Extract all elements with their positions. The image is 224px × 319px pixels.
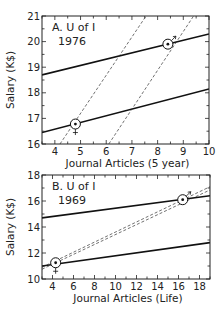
dashed-line bbox=[109, 16, 194, 144]
x-tick-label: 18 bbox=[193, 281, 206, 292]
x-tick-label: 4 bbox=[52, 146, 58, 157]
x-tick-label: 6 bbox=[70, 281, 76, 292]
figure: 45678910161718192021Journal Articles (5 … bbox=[0, 0, 224, 319]
x-tick-label: 5 bbox=[77, 146, 83, 157]
y-tick-label: 17 bbox=[27, 113, 40, 124]
y-tick-label: 19 bbox=[27, 62, 40, 73]
panel-year: 1969 bbox=[58, 194, 86, 207]
panel-title: B. U of I bbox=[52, 180, 95, 193]
female-mean-marker bbox=[70, 119, 80, 135]
x-tick-label: 10 bbox=[203, 146, 216, 157]
x-tick-label: 8 bbox=[91, 281, 97, 292]
x-tick-label: 4 bbox=[49, 281, 55, 292]
y-tick-label: 21 bbox=[27, 11, 40, 22]
x-tick-label: 12 bbox=[130, 281, 143, 292]
x-tick-label: 10 bbox=[109, 281, 122, 292]
x-tick-label: 16 bbox=[172, 281, 185, 292]
regression-line bbox=[42, 89, 209, 133]
y-axis-label: Salary (K$) bbox=[4, 51, 16, 109]
y-tick-label: 16 bbox=[27, 196, 40, 207]
y-axis-label: Salary (K$) bbox=[4, 198, 16, 256]
x-tick-label: 9 bbox=[180, 146, 186, 157]
x-tick-label: 7 bbox=[129, 146, 135, 157]
regression-line bbox=[42, 243, 210, 266]
female-mean-marker bbox=[51, 258, 61, 274]
y-tick-label: 10 bbox=[27, 274, 40, 285]
y-tick-label: 16 bbox=[27, 139, 40, 150]
chart-panel-b: 46810121416181012141618Journal Articles … bbox=[4, 170, 210, 305]
y-tick-label: 20 bbox=[27, 36, 40, 47]
x-tick-label: 14 bbox=[151, 281, 164, 292]
y-tick-label: 18 bbox=[27, 87, 40, 98]
x-axis-label: Journal Articles (5 year) bbox=[65, 157, 190, 169]
x-axis-label: Journal Articles (Life) bbox=[72, 292, 182, 304]
chart-panel-a: 45678910161718192021Journal Articles (5 … bbox=[4, 11, 215, 170]
x-tick-label: 8 bbox=[154, 146, 160, 157]
x-tick-label: 6 bbox=[103, 146, 109, 157]
y-tick-label: 12 bbox=[27, 248, 40, 259]
y-tick-label: 18 bbox=[27, 170, 40, 181]
y-tick-label: 14 bbox=[27, 222, 40, 233]
panel-year: 1976 bbox=[58, 35, 86, 48]
panel-title: A. U of I bbox=[52, 21, 95, 34]
